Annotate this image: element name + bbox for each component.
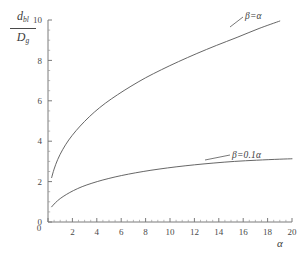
upper-label-leader [230, 17, 243, 27]
y-tick-label: 8 [38, 56, 43, 66]
x-tick-label: 10 [166, 227, 176, 237]
x-axis-ticks [48, 218, 292, 222]
x-tick-label: 14 [214, 227, 224, 237]
x-tick-label: 20 [288, 227, 298, 237]
x-tick-label: 18 [263, 227, 273, 237]
x-tick-label: 16 [239, 227, 249, 237]
x-tick-label: 4 [95, 227, 100, 237]
origin-label: 0 [37, 223, 42, 233]
x-axis-title: α [277, 237, 283, 249]
y-tick-label: 10 [33, 15, 43, 25]
x-axis-tick-labels: 24681012141618200 [37, 223, 297, 237]
x-tick-label: 6 [119, 227, 124, 237]
y-tick-label: 6 [38, 96, 43, 106]
x-tick-label: 8 [143, 227, 148, 237]
x-tick-label: 12 [190, 227, 199, 237]
curve-beta-equals-tenth-alpha [52, 159, 292, 207]
label-leader-lines [205, 17, 243, 160]
chart-figure: dbl Dg β=α β=0.1α 0246810 24681012141618… [0, 0, 308, 261]
y-axis-ticks [48, 20, 52, 222]
data-curves [52, 21, 292, 207]
y-tick-label: 4 [38, 136, 43, 146]
plot-area: 0246810 24681012141618200 α [0, 0, 308, 261]
y-axis-tick-labels: 0246810 [33, 15, 43, 227]
curve-beta-equals-alpha [52, 21, 280, 178]
x-tick-label: 2 [70, 227, 75, 237]
y-tick-label: 2 [38, 177, 43, 187]
lower-label-leader [205, 155, 230, 160]
